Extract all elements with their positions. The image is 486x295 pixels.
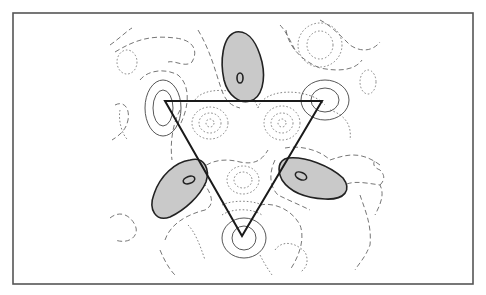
lobe-lower-right <box>279 158 347 199</box>
shaded-lobes <box>152 32 347 218</box>
contour-diagram <box>0 0 486 295</box>
lobe-top <box>222 32 263 102</box>
lobe-lower-left <box>152 159 207 218</box>
